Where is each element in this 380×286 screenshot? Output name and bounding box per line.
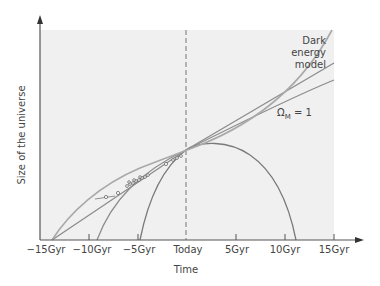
tick-label-today: Today — [174, 244, 203, 255]
tick-label-15gyr: 15Gyr — [319, 244, 350, 255]
x-axis-arrow-icon — [355, 237, 364, 243]
tick-label-minus-15gyr: −15Gyr — [27, 244, 66, 255]
tick-label-minus-10gyr: −10Gyr — [73, 244, 112, 255]
tick-label-minus-5gyr: −5Gyr — [123, 244, 156, 255]
dark-energy-label-line1: Dark energy — [270, 35, 326, 59]
tick-label-5gyr: 5Gyr — [225, 244, 249, 255]
tick-label-10gyr: 10Gyr — [270, 244, 301, 255]
y-axis-arrow-icon — [37, 15, 43, 24]
x-axis-title: Time — [174, 264, 198, 275]
dark-energy-label-line2: model — [270, 59, 326, 71]
omega-m-annotation: ΩM = 1 — [277, 107, 312, 123]
dark-energy-annotation: Dark energy model — [270, 35, 326, 71]
omega-value: = 1 — [291, 107, 312, 118]
y-axis-title: Size of the universe — [16, 85, 27, 184]
omega-symbol: Ω — [277, 107, 285, 118]
